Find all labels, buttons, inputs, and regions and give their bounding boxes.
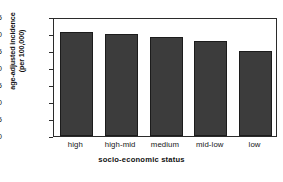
y-axis-tick-label: 10 (0, 99, 2, 107)
y-axis-tick-mark (49, 18, 53, 19)
y-axis-tick-mark (49, 86, 53, 87)
y-axis-tick-mark (49, 137, 53, 138)
y-axis-tick-label: 5 (0, 116, 2, 124)
bar (150, 37, 183, 136)
x-axis-tick-label: high-mid (98, 140, 143, 149)
bar (105, 34, 138, 136)
plot-area (53, 18, 277, 137)
y-axis-title: age-adjusted incidence (per 100,000) (8, 0, 26, 110)
y-axis-tick-label: 25 (0, 48, 2, 56)
x-axis-title: socio-economic status (0, 155, 283, 164)
bar-chart-figure: age-adjusted incidence (per 100,000) soc… (0, 0, 283, 182)
y-axis-tick-label: 15 (0, 82, 2, 90)
bar (239, 51, 272, 136)
y-axis-tick-mark (49, 103, 53, 104)
x-axis-tick-label: high (53, 140, 98, 149)
y-axis-title-line1: age-adjusted incidence (8, 0, 17, 110)
x-axis-tick-label: low (232, 140, 277, 149)
y-axis-title-line2: (per 100,000) (17, 0, 26, 110)
bar-series (54, 19, 276, 136)
x-axis-tick-label: mid-low (187, 140, 232, 149)
y-axis-tick-label: 20 (0, 65, 2, 73)
y-axis-tick-mark (49, 35, 53, 36)
y-axis-tick-label: 35 (0, 14, 2, 22)
x-axis-tick-label: medium (143, 140, 188, 149)
y-axis-tick-mark (49, 69, 53, 70)
y-axis-tick-mark (49, 52, 53, 53)
y-axis-tick-label: 0 (0, 133, 2, 141)
y-axis-tick-label: 30 (0, 31, 2, 39)
y-axis-tick-mark (49, 120, 53, 121)
bar (60, 32, 93, 136)
bar (194, 41, 227, 136)
